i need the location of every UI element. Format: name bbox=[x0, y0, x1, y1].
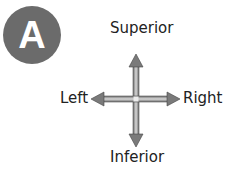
directional-cross-arrows-icon bbox=[0, 0, 230, 176]
